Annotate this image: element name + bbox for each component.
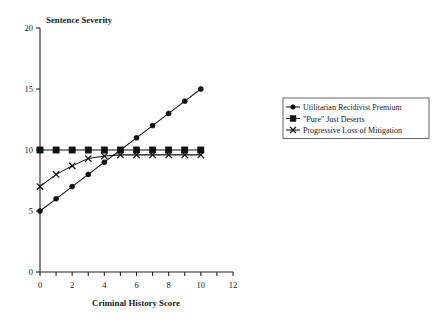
marker-circle	[38, 209, 43, 214]
legend-label: Utilitarian Recidivist Premium	[303, 103, 402, 112]
x-axis-title-group: Criminal History Score	[92, 298, 180, 308]
series-2	[37, 147, 204, 153]
x-tick-label: 8	[167, 280, 171, 290]
y-tick-label: 15	[25, 84, 34, 94]
plot-title-group: Sentence Severity	[46, 15, 113, 25]
marker-circle	[102, 160, 107, 165]
y-tick-label: 20	[25, 23, 34, 33]
y-tick-label: 10	[25, 145, 34, 155]
x-tick-label: 12	[229, 280, 238, 290]
marker-square	[101, 147, 107, 153]
data-series-group	[37, 87, 204, 214]
series-3	[37, 152, 204, 190]
page-title: Sentence Severity	[46, 15, 113, 25]
marker-circle	[182, 99, 187, 104]
marker-circle	[54, 196, 59, 201]
marker-circle	[198, 87, 203, 92]
x-tick-label: 0	[38, 280, 42, 290]
legend-label: "Pure" Just Deserts	[303, 115, 365, 124]
x-tick-label: 4	[102, 280, 107, 290]
marker-circle	[134, 135, 139, 140]
legend-item-1[interactable]: Utilitarian Recidivist Premium	[286, 103, 402, 112]
x-tick-label: 10	[197, 280, 206, 290]
marker-square	[53, 147, 59, 153]
legend-label: Progressive Loss of Mitigation	[303, 126, 402, 135]
marker-circle	[150, 123, 155, 128]
y-tick-label: 0	[29, 267, 33, 277]
chart-legend: Utilitarian Recidivist Premium"Pure" Jus…	[283, 98, 429, 139]
marker-circle	[291, 105, 296, 110]
chart-container: Sentence Severity 05101520 024681012 Cri…	[0, 0, 437, 324]
marker-square	[85, 147, 91, 153]
marker-square	[290, 116, 296, 122]
marker-circle	[70, 184, 75, 189]
y-tick-label: 5	[29, 206, 33, 216]
marker-circle	[86, 172, 91, 177]
x-tick-label: 2	[70, 280, 74, 290]
line-chart: Sentence Severity 05101520 024681012 Cri…	[0, 0, 437, 324]
x-axis-title: Criminal History Score	[92, 298, 180, 308]
x-axis-ticks: 024681012	[38, 272, 237, 290]
legend-item-3[interactable]: Progressive Loss of Mitigation	[286, 126, 402, 135]
series-line	[40, 155, 201, 187]
x-tick-label: 6	[134, 280, 138, 290]
marker-square	[37, 147, 43, 153]
marker-square	[69, 147, 75, 153]
marker-circle	[166, 111, 171, 116]
